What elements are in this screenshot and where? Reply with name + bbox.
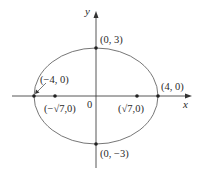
label-left-focus: (−√7,0)	[44, 103, 76, 115]
label-left-vertex: (−4, 0)	[40, 74, 69, 86]
point-left-vertex	[32, 94, 36, 98]
point-top-vertex	[94, 46, 98, 50]
point-left-focus	[53, 94, 57, 98]
point-right-focus	[135, 94, 139, 98]
origin-label: 0	[87, 99, 92, 110]
point-bottom-vertex	[94, 142, 98, 146]
y-axis-arrow-icon	[94, 11, 99, 18]
y-axis-label: y	[84, 5, 90, 17]
label-bottom-vertex: (0, −3)	[100, 148, 129, 160]
ellipse-diagram: y x 0 (0, 3) (0, −3) (−4, 0) (4, 0) (−√7…	[0, 0, 198, 177]
label-right-focus: (√7,0)	[118, 103, 144, 115]
label-top-vertex: (0, 3)	[100, 34, 123, 46]
x-axis-label: x	[182, 98, 188, 110]
point-right-vertex	[156, 94, 160, 98]
label-right-vertex: (4, 0)	[161, 81, 184, 93]
